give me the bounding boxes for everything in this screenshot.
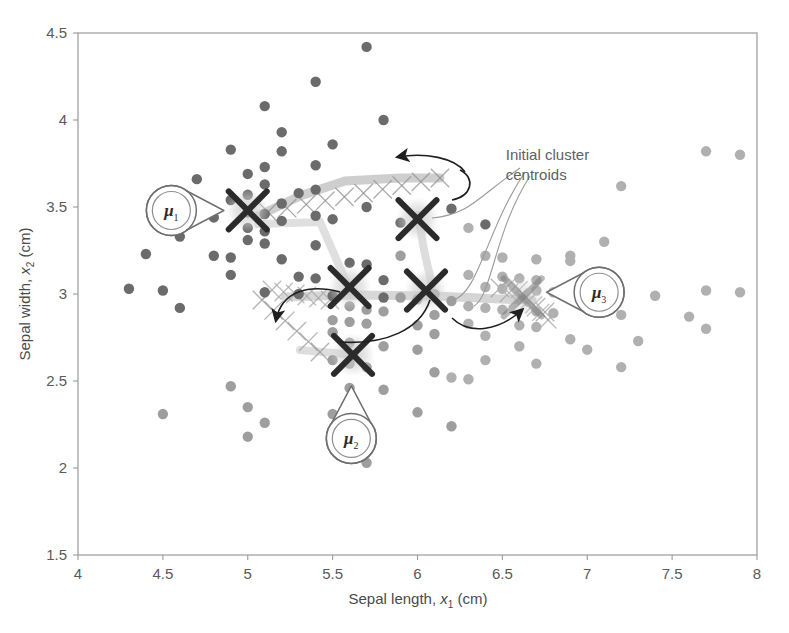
callout-subscript: 3 (601, 294, 606, 305)
data-point-cluster-1 (310, 240, 320, 250)
data-point-cluster-3 (599, 237, 609, 247)
data-point-cluster-2 (344, 317, 354, 327)
data-point-cluster-3 (701, 324, 711, 334)
data-point-cluster-3 (684, 311, 694, 321)
data-point-cluster-2 (429, 367, 439, 377)
y-tick-label: 4 (59, 111, 67, 128)
data-point-cluster-1 (192, 174, 202, 184)
data-point-cluster-1 (226, 270, 236, 280)
callout-subscript: 1 (174, 212, 179, 223)
x-tick-label: 6.5 (492, 565, 513, 582)
data-point-cluster-3 (463, 301, 473, 311)
x-tick-label: 4.5 (152, 565, 173, 582)
plot-canvas: 44.555.566.577.58 1.522.533.544.5 (0, 0, 789, 633)
data-point-cluster-1 (260, 101, 270, 111)
data-point-cluster-1 (260, 162, 270, 172)
data-point-cluster-3 (531, 254, 541, 264)
data-point-cluster-1 (260, 287, 270, 297)
data-point-cluster-1 (277, 216, 287, 226)
data-point-cluster-3 (735, 150, 745, 160)
y-tick-label: 2 (59, 459, 67, 476)
data-point-cluster-2 (158, 409, 168, 419)
data-point-cluster-1 (310, 160, 320, 170)
data-point-cluster-1 (277, 198, 287, 208)
y-tick-label: 1.5 (46, 546, 67, 563)
axis-title-suffix: (cm) (16, 227, 33, 261)
data-point-cluster-2 (412, 344, 422, 354)
y-axis-ticks: 1.522.533.544.5 (46, 24, 78, 563)
data-point-cluster-3 (565, 334, 575, 344)
data-point-cluster-1 (327, 139, 337, 149)
data-point-cluster-1 (277, 254, 287, 264)
data-point-cluster-3 (565, 256, 575, 266)
x-tick-label: 5 (244, 565, 252, 582)
data-point-cluster-3 (480, 355, 490, 365)
data-point-cluster-3 (701, 146, 711, 156)
data-point-cluster-2 (243, 431, 253, 441)
data-point-cluster-1 (293, 271, 303, 281)
data-point-cluster-1 (310, 77, 320, 87)
x-tick-label: 8 (753, 565, 761, 582)
data-point-cluster-1 (141, 249, 151, 259)
data-point-cluster-1 (327, 214, 337, 224)
x-tick-label: 7.5 (662, 565, 683, 582)
x-tick-label: 6 (413, 565, 421, 582)
x-tick-label: 5.5 (322, 565, 343, 582)
data-point-cluster-2 (378, 341, 388, 351)
data-point-cluster-3 (582, 344, 592, 354)
data-point-cluster-2 (243, 402, 253, 412)
scatter-plot-figure: 44.555.566.577.58 1.522.533.544.5 (0, 0, 789, 633)
data-point-cluster-3 (463, 374, 473, 384)
axis-title-prefix: Sepal width, (16, 275, 33, 361)
data-point-cluster-3 (446, 372, 456, 382)
data-point-cluster-3 (650, 291, 660, 301)
data-point-cluster-3 (701, 285, 711, 295)
data-point-cluster-3 (480, 282, 490, 292)
data-point-cluster-1 (260, 238, 270, 248)
data-point-cluster-1 (124, 284, 134, 294)
data-point-cluster-3 (480, 331, 490, 341)
data-point-cluster-2 (361, 318, 371, 328)
data-point-cluster-2 (378, 306, 388, 316)
axis-title-suffix: (cm) (453, 590, 487, 607)
data-point-cluster-1 (243, 169, 253, 179)
x-tick-label: 7 (583, 565, 591, 582)
data-point-cluster-1 (378, 115, 388, 125)
data-point-cluster-3 (735, 287, 745, 297)
data-point-cluster-2 (260, 418, 270, 428)
data-point-cluster-1 (480, 219, 490, 229)
data-point-cluster-3 (633, 336, 643, 346)
data-point-cluster-3 (480, 303, 490, 313)
data-point-cluster-1 (310, 211, 320, 221)
data-point-cluster-1 (260, 179, 270, 189)
data-point-cluster-1 (378, 292, 388, 302)
axis-title-prefix: Sepal length, (349, 590, 441, 607)
annotation-line: Initial cluster (506, 146, 589, 163)
data-point-cluster-3 (514, 341, 524, 351)
data-point-cluster-1 (310, 184, 320, 194)
x-axis-title: Sepal length, x1 (cm) (349, 590, 488, 610)
data-point-cluster-1 (446, 204, 456, 214)
data-point-cluster-2 (429, 329, 439, 339)
data-point-cluster-3 (548, 308, 558, 318)
data-point-cluster-3 (531, 322, 541, 332)
data-point-cluster-2 (226, 381, 236, 391)
y-axis-title: Sepal width, x2 (cm) (16, 227, 36, 360)
data-point-cluster-1 (226, 144, 236, 154)
data-point-cluster-2 (412, 320, 422, 330)
data-point-cluster-2 (395, 251, 405, 261)
data-point-cluster-3 (497, 252, 507, 262)
data-point-cluster-1 (310, 273, 320, 283)
y-tick-label: 2.5 (46, 372, 67, 389)
callout-subscript: 2 (354, 440, 359, 451)
data-point-cluster-2 (446, 296, 456, 306)
y-tick-label: 4.5 (46, 24, 67, 41)
data-point-cluster-3 (463, 223, 473, 233)
data-point-cluster-1 (209, 251, 219, 261)
data-point-cluster-3 (531, 358, 541, 368)
data-point-cluster-1 (158, 285, 168, 295)
data-point-cluster-1 (226, 252, 236, 262)
data-point-cluster-2 (446, 421, 456, 431)
data-point-cluster-1 (361, 202, 371, 212)
data-point-cluster-1 (293, 188, 303, 198)
